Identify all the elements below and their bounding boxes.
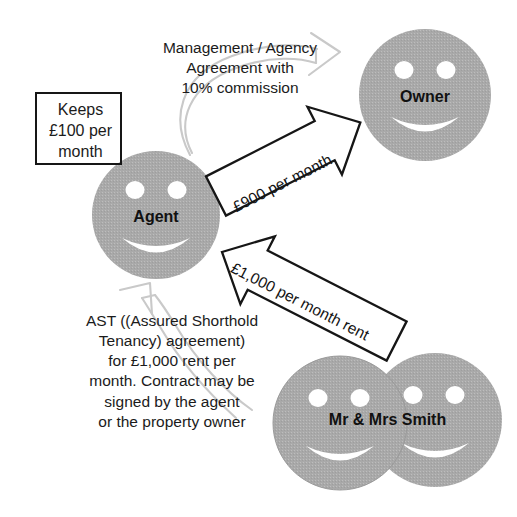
- keeps-note-box: Keeps £100 per month: [35, 92, 122, 165]
- agent-eye-left: [126, 181, 145, 199]
- keeps-note-text: Keeps £100 per month: [33, 99, 128, 162]
- tenant-right-eye-right: [446, 386, 465, 404]
- management-agreement-note: Management / Agency Agreement with 10% c…: [148, 38, 332, 98]
- owner-label: Owner: [380, 89, 470, 105]
- agent-eye-right: [168, 181, 187, 199]
- diagram-canvas: Keeps £100 per month Management / Agency…: [0, 0, 517, 517]
- owner-eye-right: [437, 61, 456, 79]
- tenant-right-eye-left: [404, 386, 423, 404]
- tenant-left-eye-right: [351, 389, 370, 407]
- tenant-left-eye-left: [309, 389, 328, 407]
- agent-label: Agent: [111, 209, 201, 225]
- arrow-agent-to-owner[interactable]: [199, 89, 378, 230]
- ast-note: AST ((Assured Shorthold Tenancy) agreeme…: [68, 311, 276, 432]
- tenants-label: Mr & Mrs Smith: [290, 412, 485, 428]
- owner-eye-left: [395, 61, 414, 79]
